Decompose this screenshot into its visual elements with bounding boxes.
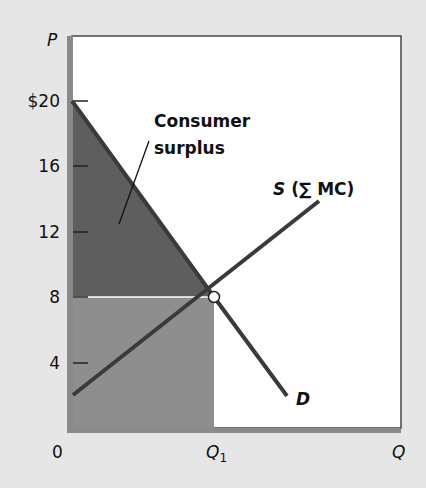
- consumer-surplus-label-line2: surplus: [154, 138, 225, 158]
- y-tick-16: 16: [38, 156, 60, 176]
- y-axis: [67, 36, 73, 433]
- q1-label: Q1: [206, 442, 227, 465]
- supply-s: S: [273, 179, 285, 199]
- expenditure-area: [72, 297, 214, 428]
- consumer-surplus-label-line1: Consumer: [154, 111, 251, 131]
- y-tick-8: 8: [49, 287, 60, 307]
- y-tick-4: 4: [49, 353, 60, 373]
- y-tick-20: $20: [28, 91, 60, 111]
- q1-sub: 1: [219, 451, 227, 465]
- y-tick-12: 12: [38, 222, 60, 242]
- supply-mc: (∑ MC): [291, 179, 354, 199]
- equilibrium-point: [209, 292, 220, 303]
- x-axis: [67, 428, 401, 433]
- y-axis-label: P: [47, 30, 58, 50]
- supply-demand-chart: P $20 16 12 8 4 0 Q1 Q Consumer surplus …: [0, 0, 426, 488]
- x-axis-label: Q: [392, 442, 405, 462]
- origin-label: 0: [52, 442, 63, 462]
- supply-label: S(∑ MC): [273, 179, 354, 199]
- q1-main: Q: [206, 442, 219, 462]
- demand-label: D: [296, 389, 310, 409]
